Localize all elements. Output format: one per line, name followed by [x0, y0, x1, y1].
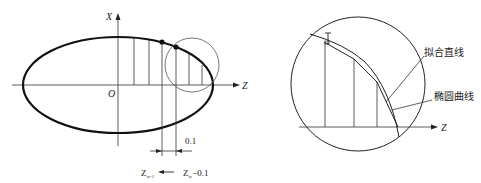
ellipse-curve	[310, 34, 399, 137]
magnifier-circle	[165, 38, 219, 92]
callout-ellipse-curve: 椭圆曲线	[434, 90, 474, 102]
z-axis-label: Z	[441, 122, 447, 133]
callout-fit-line: 拟合直线	[424, 46, 464, 58]
z-axis-arrow-icon	[233, 83, 240, 88]
left-arrow-icon	[158, 170, 164, 174]
dimension-arrow-icon	[156, 149, 162, 153]
zw-1-label: Zw-1	[141, 168, 155, 179]
diagram-canvas: 0.1 X Z O Zw-1 Zw−0.1 Z 拟合直线 椭圆曲线	[0, 0, 481, 183]
left-figure: 0.1 X Z O Zw-1 Zw−0.1	[12, 11, 248, 179]
zw-minus-label: Zw−0.1	[183, 168, 208, 179]
magnified-circle	[291, 17, 425, 151]
origin-label: O	[108, 88, 115, 99]
z-axis-label: Z	[242, 80, 248, 91]
right-figure: Z 拟合直线 椭圆曲线	[291, 17, 474, 151]
x-axis-label: X	[105, 11, 113, 22]
callout-leader	[392, 100, 432, 110]
dimension-arrow-icon	[176, 149, 182, 153]
point-zw-1	[159, 39, 164, 44]
x-axis-arrow-icon	[116, 13, 121, 20]
callout-leader	[386, 56, 424, 102]
fit-line	[324, 42, 398, 127]
z-axis-arrow-icon	[431, 125, 438, 130]
spacing-label: 0.1	[185, 136, 196, 146]
